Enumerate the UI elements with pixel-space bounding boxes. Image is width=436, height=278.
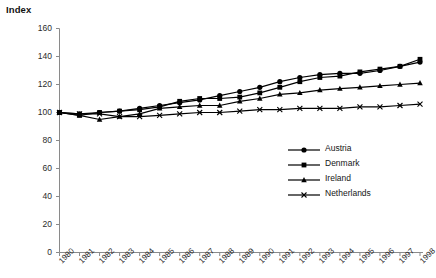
data-point-square <box>378 67 383 72</box>
square-marker-icon <box>287 157 321 169</box>
data-point-square <box>257 91 262 96</box>
y-axis-tick-label: 120 <box>14 79 52 89</box>
y-axis-tick-label: 60 <box>14 163 52 173</box>
legend-item-label: Denmark <box>325 158 359 168</box>
data-point-square <box>177 99 182 104</box>
legend-item-ireland[interactable]: Ireland <box>287 170 427 185</box>
data-point-square <box>117 109 122 114</box>
y-axis-tick-label: 100 <box>14 107 52 117</box>
legend-item-label: Austria <box>325 143 351 153</box>
data-point-circle <box>257 85 262 90</box>
data-point-circle <box>237 89 242 94</box>
data-point-square <box>197 96 202 101</box>
cross-marker-icon <box>287 187 321 199</box>
triangle-marker-icon <box>287 172 321 184</box>
y-axis-tick-label: 20 <box>14 219 52 229</box>
y-axis-tick-label: 80 <box>14 135 52 145</box>
data-point-square <box>418 57 423 62</box>
data-point-square <box>302 162 307 167</box>
data-point-circle <box>301 147 306 152</box>
y-axis-tick-label: 40 <box>14 191 52 201</box>
legend-item-label: Ireland <box>325 173 351 183</box>
legend-item-denmark[interactable]: Denmark <box>287 155 427 170</box>
data-point-square <box>398 64 403 69</box>
y-axis-tick-label: 140 <box>14 51 52 61</box>
data-point-square <box>297 79 302 84</box>
y-axis-tick-label: 0 <box>14 247 52 257</box>
chart-legend: AustriaDenmarkIrelandNetherlands <box>287 140 427 200</box>
legend-item-label: Netherlands <box>325 188 371 198</box>
data-point-square <box>358 70 363 75</box>
data-point-square <box>317 75 322 80</box>
y-axis-tick-label: 160 <box>14 23 52 33</box>
data-point-square <box>337 74 342 79</box>
data-point-square <box>217 96 222 101</box>
legend-item-austria[interactable]: Austria <box>287 140 427 155</box>
legend-item-netherlands[interactable]: Netherlands <box>287 185 427 200</box>
data-point-circle <box>277 79 282 84</box>
series-austria <box>57 60 423 117</box>
series-netherlands <box>57 102 423 120</box>
series-line <box>60 62 421 114</box>
data-point-square <box>277 85 282 90</box>
circle-marker-icon <box>287 142 321 154</box>
